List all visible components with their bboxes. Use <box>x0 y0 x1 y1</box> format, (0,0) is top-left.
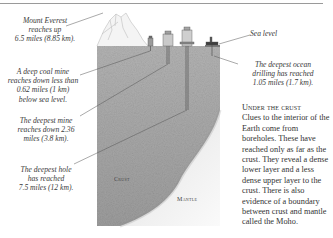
ocean-drilling-label: The deepest ocean drilling has reached 1… <box>238 60 328 88</box>
mount-everest-illustration <box>97 13 148 46</box>
everest-label-line: 6.5 miles (8.85 km). <box>10 34 80 43</box>
caption-heading: Under the crust <box>242 103 301 112</box>
coal-mine-label: A deep coal mine reaches down less than … <box>2 67 84 104</box>
coal-mine-label-line: below sea level. <box>2 95 84 104</box>
deepest-mine-label-line: The deepest mine <box>8 116 84 125</box>
deepest-hole-label: The deepest hole has reached 7.5 miles (… <box>8 165 84 193</box>
sea-level-text: Sea level <box>250 29 277 38</box>
mantle-label: Mantle <box>177 196 197 202</box>
sea-level-label: Sea level <box>250 29 300 38</box>
ocean-drilling-label-line: drilling has reached <box>238 69 328 78</box>
everest-label-line: Mount Everest <box>10 16 80 25</box>
everest-label: Mount Everest reaches up 6.5 miles (8.85… <box>10 16 80 44</box>
crust-block <box>97 46 220 226</box>
deepest-hole-label-line: has reached <box>8 174 84 183</box>
deepest-hole-label-line: 7.5 miles (12 km). <box>8 183 84 192</box>
deepest-mine-label-line: reaches down 2.36 <box>8 125 84 134</box>
ocean-drilling-label-line: 1.05 miles (1.7 km). <box>238 78 328 87</box>
caption-body: Clues to the interior of the Earth come … <box>242 113 329 226</box>
deepest-mine-label-line: miles (3.8 km). <box>8 134 84 143</box>
deepest-mine-label: The deepest mine reaches down 2.36 miles… <box>8 116 84 144</box>
deepest-hole-label-line: The deepest hole <box>8 165 84 174</box>
ocean-drilling-label-line: The deepest ocean <box>238 60 328 69</box>
drill-rigs <box>148 27 218 46</box>
caption-block: Under the crust Clues to the interior of… <box>242 103 333 228</box>
coal-mine-label-line: reaches down less than <box>2 76 84 85</box>
coal-mine-label-line: A deep coal mine <box>2 67 84 76</box>
sea-surface <box>205 45 220 47</box>
everest-label-line: reaches up <box>10 25 80 34</box>
crust-label: Crust <box>114 176 130 182</box>
coal-mine-label-line: 0.62 miles (1 km) <box>2 85 84 94</box>
